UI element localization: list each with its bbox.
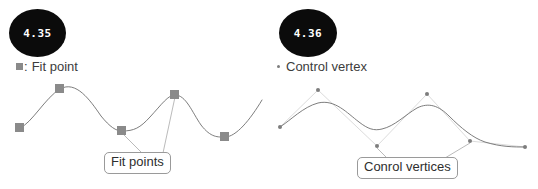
control-vertex-marker[interactable] bbox=[375, 144, 379, 148]
control-vertices-callout: Conrol vertices bbox=[357, 157, 458, 179]
control-vertex-marker[interactable] bbox=[316, 88, 320, 92]
leader-line bbox=[445, 143, 470, 158]
spline-curve bbox=[280, 102, 525, 147]
fit-points-callout: Fit points bbox=[104, 152, 171, 174]
fit-point-marker[interactable] bbox=[15, 123, 24, 132]
leader-line bbox=[163, 97, 175, 153]
fit-point-panel: 4.35 : Fit point Fit points bbox=[0, 0, 269, 189]
control-vertex-panel: 4.36 Control vertex Conrol vertices bbox=[269, 0, 538, 189]
control-vertex-marker[interactable] bbox=[278, 125, 282, 129]
fit-point-marker[interactable] bbox=[170, 90, 179, 99]
fit-point-marker[interactable] bbox=[117, 126, 126, 135]
control-vertex-marker[interactable] bbox=[425, 92, 429, 96]
control-vertex-marker[interactable] bbox=[523, 145, 527, 149]
fit-point-marker[interactable] bbox=[220, 132, 229, 141]
leader-line bbox=[122, 133, 142, 153]
fit-point-marker[interactable] bbox=[55, 84, 64, 93]
spline-curve bbox=[20, 87, 262, 137]
control-vertex-marker[interactable] bbox=[468, 139, 472, 143]
